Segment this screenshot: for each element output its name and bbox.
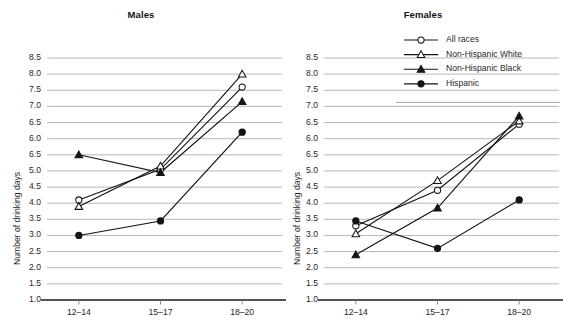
panel-females (318, 58, 563, 305)
legend-label-all-races: All races (446, 34, 479, 44)
y-tick-label: 3.5 (280, 213, 318, 223)
data-point-marker-filled-triangle (238, 98, 246, 105)
data-point-marker-filled-triangle (352, 251, 360, 258)
data-point-marker-filled-circle (239, 129, 245, 135)
data-point-marker-open-triangle (434, 177, 442, 184)
panel-title-males: Males (0, 9, 282, 20)
y-tick-label: 2.5 (280, 246, 318, 256)
y-tick-label: 6.5 (3, 117, 41, 127)
series-line-non-hispanic-white (79, 74, 242, 206)
x-tick-label: 15–17 (131, 307, 191, 317)
x-tick-label: 12–14 (326, 307, 386, 317)
y-tick-label: 8.0 (3, 68, 41, 78)
data-point-marker-filled-circle (418, 81, 424, 87)
data-point-marker-open-circle (239, 84, 245, 90)
x-tick-label: 15–17 (408, 307, 468, 317)
data-point-marker-filled-triangle (515, 112, 523, 119)
y-tick-label: 8.5 (280, 52, 318, 62)
data-point-marker-filled-circle (157, 218, 163, 224)
y-tick-label: 7.0 (280, 100, 318, 110)
y-tick-label: 6.5 (280, 117, 318, 127)
data-point-marker-open-circle (418, 37, 424, 43)
y-tick-label: 3.0 (3, 229, 41, 239)
y-tick-label: 6.0 (3, 133, 41, 143)
y-tick-label: 7.5 (3, 84, 41, 94)
panel-males (41, 58, 286, 305)
y-tick-label: 6.5 (3, 149, 41, 159)
series-line-all-races (79, 87, 242, 200)
x-tick-label: 18–20 (489, 307, 549, 317)
x-tick-label: 12–14 (49, 307, 109, 317)
legend-label-non-hispanic-white: Non-Hispanic White (446, 49, 522, 59)
data-point-marker-open-triangle (238, 70, 246, 77)
y-tick-label: 6.5 (280, 149, 318, 159)
series-line-non-hispanic-black (356, 116, 519, 255)
y-tick-label: 7.0 (3, 100, 41, 110)
data-point-marker-open-triangle (352, 230, 360, 237)
y-tick-label: 4.0 (3, 197, 41, 207)
y-tick-label: 2.0 (3, 262, 41, 272)
y-tick-label: 1.0 (3, 294, 41, 304)
y-tick-label: 2.0 (280, 262, 318, 272)
y-tick-label: 3.0 (280, 229, 318, 239)
y-tick-label: 1.5 (280, 278, 318, 288)
y-tick-label: 1.0 (280, 294, 318, 304)
y-tick-label: 8.0 (280, 68, 318, 78)
x-tick-label: 18–20 (212, 307, 272, 317)
legend-label-non-hispanic-black: Non-Hispanic Black (446, 63, 521, 73)
y-tick-label: 1.5 (3, 278, 41, 288)
legend-marker-wrap (418, 81, 424, 87)
y-tick-label: 8.5 (3, 52, 41, 62)
data-point-marker-filled-triangle (75, 151, 83, 158)
y-tick-label: 3.5 (3, 213, 41, 223)
y-tick-label: 5.0 (3, 165, 41, 175)
data-point-marker-filled-circle (353, 218, 359, 224)
legend-label-hispanic: Hispanic (446, 78, 479, 88)
legend-marker-wrap (418, 37, 424, 43)
panel-title-females: Females (282, 9, 564, 20)
y-tick-label: 4.0 (280, 197, 318, 207)
y-tick-label: 4.5 (280, 181, 318, 191)
y-tick-label: 6.0 (280, 133, 318, 143)
y-tick-label: 7.5 (280, 84, 318, 94)
data-point-marker-filled-circle (516, 197, 522, 203)
data-point-marker-open-circle (434, 187, 440, 193)
data-point-marker-open-triangle (75, 203, 83, 210)
y-tick-label: 2.5 (3, 246, 41, 256)
y-tick-label: 5.0 (280, 165, 318, 175)
data-point-marker-filled-circle (76, 232, 82, 238)
data-point-marker-filled-circle (434, 245, 440, 251)
figure-root: Males Females Number of drinking days Nu… (0, 0, 564, 329)
y-tick-label: 4.5 (3, 181, 41, 191)
